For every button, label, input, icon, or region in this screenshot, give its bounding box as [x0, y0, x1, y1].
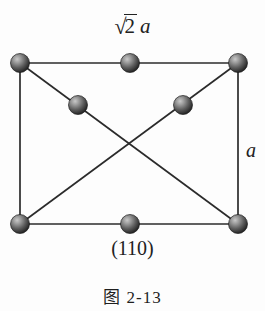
bond-lines	[20, 63, 238, 224]
atom-edge-top-middle	[121, 54, 140, 73]
atom-corner-bottom-left	[11, 215, 30, 234]
lattice-constant-symbol: a	[140, 14, 151, 38]
miller-index-label: (110)	[0, 238, 265, 258]
atom-inner-right	[174, 96, 193, 115]
atom-edge-bottom-middle	[121, 215, 140, 234]
atom-corner-top-right	[229, 54, 248, 73]
figure-caption: 图 2-13	[0, 289, 265, 306]
lattice-constant-right-label: a	[246, 140, 256, 160]
radicand-value: 2	[124, 14, 138, 37]
sqrt-expression: √2a	[114, 14, 150, 38]
atom-inner-left	[69, 96, 88, 115]
lattice-constant-top-label: √2a	[0, 14, 265, 38]
lattice-diagram	[0, 0, 265, 311]
figure-110-plane: √2a a (110) 图 2-13	[0, 0, 265, 311]
atom-corner-top-left	[11, 54, 30, 73]
atom-corner-bottom-right	[229, 215, 248, 234]
